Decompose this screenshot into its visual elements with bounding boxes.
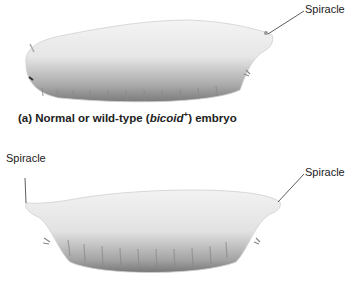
embryo-figure: Spiracle (a) Normal or wild-type (bicoid…	[0, 0, 356, 282]
embryo-illustrations	[0, 0, 356, 282]
panel-a-caption: (a) Normal or wild-type (bicoid+) embryo	[18, 110, 237, 124]
wild-type-embryo	[26, 11, 304, 102]
bicoid-mutant-embryo	[25, 174, 304, 273]
spiracle-label-a-posterior: Spiracle	[305, 3, 345, 15]
spiracle-label-b-posterior: Spiracle	[305, 166, 345, 178]
spiracle-label-b-anterior: Spiracle	[6, 152, 46, 164]
